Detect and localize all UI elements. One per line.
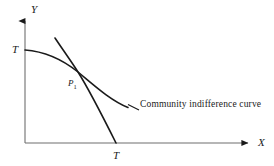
economics-diagram: Y X T T P1 Community indifference curve	[0, 0, 274, 166]
y-axis-label: Y	[31, 4, 37, 15]
community-indifference-curve-caption: Community indifference curve	[140, 100, 261, 110]
y-intercept-label: T	[12, 44, 18, 55]
caption-leader-line	[128, 105, 139, 111]
tangency-point-label: P1	[68, 79, 77, 90]
tangency-point-subscript: 1	[74, 83, 77, 90]
x-intercept-label: T	[113, 150, 119, 161]
diagram-canvas	[0, 0, 274, 166]
x-axis-label: X	[258, 137, 265, 148]
transformation-curve	[55, 38, 116, 143]
